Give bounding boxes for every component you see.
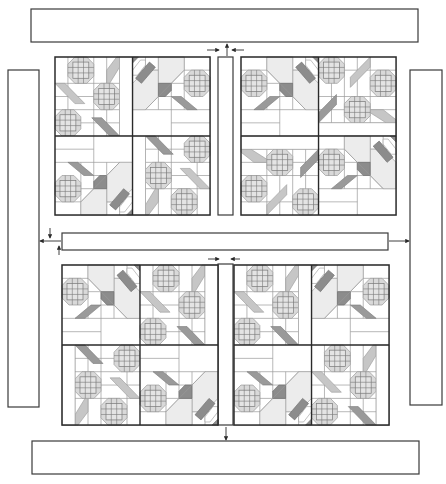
quilt-block-upper-right <box>241 57 396 215</box>
top-border-strip <box>31 9 418 42</box>
left-border-strip <box>8 70 39 407</box>
quilt-block-lower-left <box>62 265 218 425</box>
quilt-assembly-diagram <box>0 0 446 484</box>
quilt-block-upper-left <box>55 57 210 215</box>
quilt-block-lower-right <box>234 265 389 425</box>
lower-vertical-sashing <box>218 264 233 425</box>
bottom-border-strip <box>32 441 419 474</box>
right-border-strip <box>410 70 442 405</box>
horizontal-sashing <box>62 233 388 250</box>
upper-vertical-sashing <box>218 57 233 215</box>
